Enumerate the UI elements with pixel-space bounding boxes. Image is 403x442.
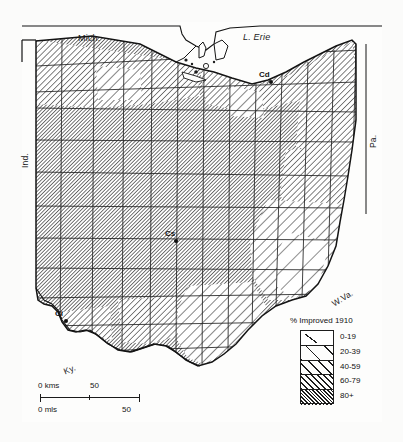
legend-swatch-60-79 xyxy=(301,375,333,390)
label-city-columbus: Cs xyxy=(165,229,175,238)
legend-label-80-plus: 80+ xyxy=(340,391,354,400)
legend-swatch-0-19 xyxy=(301,331,333,346)
label-michigan: Mich. xyxy=(78,33,101,43)
map-figure: Mich. L. Erie Ind. Pa. W.Va. Ky. Cd Cs C… xyxy=(0,0,403,442)
label-city-cincinnati: Ci xyxy=(55,309,63,318)
city-dot-columbus xyxy=(174,239,178,243)
legend-title: % Improved 1910 xyxy=(290,316,353,325)
scale-label-kms-fifty: 50 xyxy=(90,381,196,390)
city-dot-cincinnati xyxy=(64,319,68,323)
scale-tick-mid xyxy=(89,395,90,400)
label-indiana: Ind. xyxy=(20,153,30,168)
legend-label-0-19: 0-19 xyxy=(340,332,356,341)
legend-swatch-column xyxy=(300,330,334,404)
scale-tick-start xyxy=(40,394,41,402)
legend-swatch-20-39 xyxy=(301,346,333,361)
label-pennsylvania: Pa. xyxy=(368,135,378,148)
scale-bar-line xyxy=(40,394,140,402)
legend-label-60-79: 60-79 xyxy=(340,376,360,385)
city-dot-cleveland xyxy=(269,80,273,84)
legend-label-40-59: 40-59 xyxy=(340,362,360,371)
scale-tick-end xyxy=(139,394,140,402)
label-lake-erie: L. Erie xyxy=(243,32,270,42)
legend-label-20-39: 20-39 xyxy=(340,347,360,356)
map-legend: % Improved 1910 0-19 20-39 40-59 60-79 8… xyxy=(288,316,380,408)
legend-swatch-80-plus xyxy=(301,390,333,405)
scale-label-mls-fifty: 50 xyxy=(122,405,228,414)
legend-swatch-40-59 xyxy=(301,361,333,376)
scale-bar: 0 kms 50 0 mls 50 xyxy=(38,381,144,415)
label-city-cleveland: Cd xyxy=(259,70,270,79)
